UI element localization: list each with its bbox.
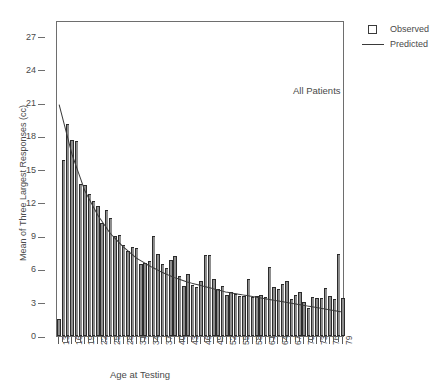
x-tick-mark xyxy=(239,337,240,344)
x-tick-mark xyxy=(286,337,287,342)
y-tick-label: 18 xyxy=(26,132,36,141)
x-tick-mark xyxy=(338,337,339,342)
x-tick-mark xyxy=(131,337,132,342)
x-tick-mark xyxy=(204,337,205,342)
y-tick-mark xyxy=(38,104,45,105)
y-tick-mark xyxy=(38,303,45,304)
x-tick-mark xyxy=(170,337,171,342)
y-tick-label: 9 xyxy=(31,232,36,241)
legend: Observed Predicted xyxy=(362,22,442,52)
y-axis: Mean of Three Largest Responses (cc) 036… xyxy=(0,0,56,390)
x-tick-mark xyxy=(342,337,343,344)
x-tick-mark xyxy=(308,337,309,342)
x-tick-mark xyxy=(222,337,223,342)
y-tick-label: 6 xyxy=(31,265,36,274)
x-tick-mark xyxy=(114,337,115,342)
x-tick-mark xyxy=(230,337,231,342)
x-tick-mark xyxy=(153,337,154,342)
open-square-icon xyxy=(362,24,386,35)
x-tick-mark xyxy=(200,337,201,344)
x-tick-mark xyxy=(161,337,162,344)
x-tick-mark xyxy=(58,337,59,344)
predicted-curve xyxy=(59,105,341,312)
legend-item-observed: Observed xyxy=(362,22,442,37)
y-tick-label: 24 xyxy=(26,66,36,75)
x-tick-mark xyxy=(196,337,197,342)
x-tick-mark xyxy=(209,337,210,342)
line-icon xyxy=(362,39,386,50)
x-tick-mark xyxy=(166,337,167,342)
x-tick-mark xyxy=(136,337,137,344)
x-tick-mark xyxy=(71,337,72,344)
x-tick-mark xyxy=(217,337,218,342)
x-tick-mark xyxy=(80,337,81,342)
x-tick-mark xyxy=(127,337,128,342)
chart-figure: Mean of Three Largest Responses (cc) 036… xyxy=(0,0,442,390)
x-tick-mark xyxy=(105,337,106,342)
legend-item-predicted: Predicted xyxy=(362,37,442,52)
x-tick-mark xyxy=(179,337,180,342)
x-tick-mark xyxy=(243,337,244,342)
x-tick-mark xyxy=(252,337,253,344)
x-tick-mark xyxy=(88,337,89,342)
y-tick-label: 21 xyxy=(26,99,36,108)
x-tick-mark xyxy=(67,337,68,342)
x-tick-mark xyxy=(234,337,235,342)
y-tick-label: 15 xyxy=(26,166,36,175)
y-tick-mark xyxy=(38,170,45,171)
x-tick-mark xyxy=(213,337,214,344)
y-tick-label: 3 xyxy=(31,299,36,308)
x-tick-mark xyxy=(226,337,227,344)
y-tick-mark xyxy=(38,337,45,338)
y-tick-mark xyxy=(38,270,45,271)
x-tick-mark xyxy=(290,337,291,344)
x-tick-mark xyxy=(265,337,266,344)
x-tick-mark xyxy=(277,337,278,344)
x-tick-mark xyxy=(316,337,317,344)
x-tick-mark xyxy=(93,337,94,342)
x-tick-mark xyxy=(269,337,270,342)
x-tick-mark xyxy=(303,337,304,344)
annotation-all-patients: All Patients xyxy=(293,86,341,96)
x-tick-mark xyxy=(299,337,300,342)
x-tick-mark xyxy=(191,337,192,342)
y-tick-mark xyxy=(38,37,45,38)
x-tick-mark xyxy=(273,337,274,342)
x-tick-mark xyxy=(84,337,85,344)
y-tick-label: 12 xyxy=(26,199,36,208)
y-tick-label: 27 xyxy=(26,33,36,42)
x-tick-label: 79 xyxy=(345,336,354,345)
x-tick-mark xyxy=(144,337,145,342)
x-axis-title: Age at Testing xyxy=(110,370,170,380)
x-tick-mark xyxy=(260,337,261,342)
x-tick-mark xyxy=(140,337,141,342)
x-tick-mark xyxy=(148,337,149,344)
y-tick-label: 0 xyxy=(31,332,36,341)
x-tick-mark xyxy=(110,337,111,344)
y-axis-title: Mean of Three Largest Responses (cc) xyxy=(18,78,28,288)
predicted-line-layer xyxy=(57,22,343,336)
x-tick-mark xyxy=(282,337,283,342)
x-tick-mark xyxy=(329,337,330,344)
x-tick-mark xyxy=(123,337,124,344)
x-tick-mark xyxy=(118,337,119,342)
y-tick-mark xyxy=(38,137,45,138)
y-tick-mark xyxy=(38,70,45,71)
y-tick-mark xyxy=(38,237,45,238)
x-tick-mark xyxy=(320,337,321,342)
x-tick-mark xyxy=(101,337,102,342)
x-tick-mark xyxy=(75,337,76,342)
x-tick-mark xyxy=(62,337,63,342)
x-tick-mark xyxy=(256,337,257,342)
legend-label-predicted: Predicted xyxy=(390,39,428,50)
x-tick-mark xyxy=(312,337,313,342)
x-tick-mark xyxy=(157,337,158,342)
x-axis: 1316192225283134374043464952555861646770… xyxy=(56,337,344,390)
x-tick-mark xyxy=(97,337,98,344)
x-tick-mark xyxy=(174,337,175,344)
x-tick-mark xyxy=(183,337,184,342)
x-tick-mark xyxy=(295,337,296,342)
y-tick-mark xyxy=(38,203,45,204)
x-tick-mark xyxy=(247,337,248,342)
legend-label-observed: Observed xyxy=(390,24,429,35)
